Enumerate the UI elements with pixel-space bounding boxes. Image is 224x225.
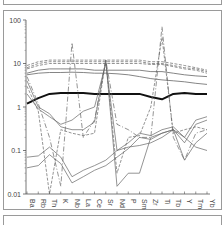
- x-tick-label: Sr: [107, 199, 114, 207]
- y-tick-label: 1: [17, 104, 21, 111]
- y-tick-label: 10: [13, 60, 21, 67]
- x-tick-label: K: [62, 199, 69, 204]
- x-tick-label: La: [85, 199, 92, 207]
- x-tick-label: Nb: [74, 199, 81, 208]
- spider-diagram: 1001010.10.01BaRbThKNbLaCeSrNdPSmZrTiTbY…: [0, 0, 224, 225]
- x-tick-label: Nd: [119, 199, 126, 208]
- series-line-dashed-mid: [27, 37, 207, 194]
- x-tick-label: Yb: [209, 199, 216, 208]
- x-tick-label: Th: [51, 199, 58, 207]
- y-tick-label: 0.1: [11, 147, 21, 154]
- x-tick-label: Tb: [175, 199, 182, 207]
- x-tick-label: P: [130, 199, 137, 204]
- x-tick-label: Ti: [164, 199, 171, 205]
- x-tick-label: Rb: [40, 199, 47, 208]
- x-tick-label: Tm: [197, 199, 204, 209]
- y-tick-label: 0.01: [7, 191, 21, 198]
- y-tick-label: 100: [9, 17, 21, 24]
- x-tick-label: Y: [186, 199, 193, 204]
- data-series: [27, 27, 207, 194]
- x-tick-label: Ce: [96, 199, 103, 208]
- x-tick-label: Ba: [29, 199, 36, 208]
- series-line-thick-main: [27, 93, 207, 104]
- x-tick-label: Sm: [141, 199, 148, 210]
- series-line-dashdot-spiky: [27, 27, 207, 187]
- x-tick-label: Zr: [152, 199, 159, 206]
